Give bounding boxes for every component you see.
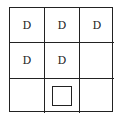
cell-label: D xyxy=(23,54,32,67)
three-by-three-grid: D D D D D xyxy=(9,7,113,112)
cell-r2-c1: D xyxy=(10,43,45,79)
cell-r1-c3: D xyxy=(80,8,114,43)
cell-r1-c1: D xyxy=(10,8,45,43)
cell-label: D xyxy=(58,54,67,67)
cell-label: D xyxy=(93,19,102,32)
cell-r3-c2 xyxy=(45,79,80,113)
cell-r3-c1 xyxy=(10,79,45,113)
cell-label: D xyxy=(58,19,67,32)
cell-label: D xyxy=(23,19,32,32)
cell-r3-c3 xyxy=(80,79,114,113)
cell-r2-c3 xyxy=(80,43,114,79)
cell-r2-c2: D xyxy=(45,43,80,79)
cell-r1-c2: D xyxy=(45,8,80,43)
empty-square-icon xyxy=(52,86,72,106)
